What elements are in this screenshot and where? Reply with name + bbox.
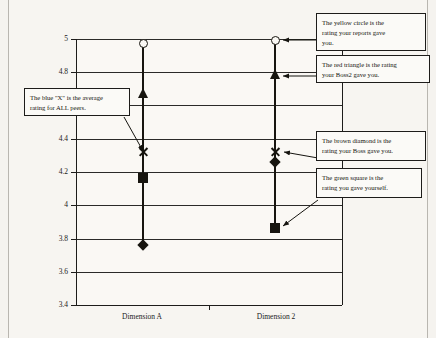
marker-reports-dimension-2 [271, 36, 280, 45]
callout-reports-line1: The yellow circle is the [322, 18, 420, 27]
y-tick-3.8 [71, 239, 76, 240]
y-label-3.4: 3.4 [59, 301, 68, 309]
callout-boss: The brown diamond is the rating your Bos… [316, 131, 426, 161]
marker-reports-dimension-a [139, 39, 148, 48]
y-label-3.8: 3.8 [59, 235, 68, 243]
y-label-5.0: 5 [64, 35, 68, 43]
gridline-4.8 [76, 72, 342, 73]
gridline-4.2 [76, 172, 342, 173]
y-label-4.8: 4.8 [59, 68, 68, 76]
x-label-dimension-a: Dimension A [102, 313, 182, 321]
gridline-3.8 [76, 239, 342, 240]
marker-boss2-dimension-2 [270, 69, 280, 79]
y-axis-line [76, 39, 77, 305]
gridline-5.0 [76, 39, 342, 40]
marker-boss2-dimension-a [138, 88, 148, 98]
gridline-4.4 [76, 139, 342, 140]
callout-peers-line1: The blue "X" is the average [30, 93, 124, 102]
y-tick-4.2 [71, 172, 76, 173]
callout-peers-average: The blue "X" is the average rating for A… [24, 88, 130, 116]
callout-self-line1: The green square is the [322, 173, 416, 182]
y-label-4.4: 4.4 [59, 135, 68, 143]
y-tick-3.6 [71, 272, 76, 273]
gridline-3.6 [76, 272, 342, 273]
callout-reports-line2: rating your reports gave [322, 28, 420, 37]
y-tick-5.0 [71, 39, 76, 40]
y-label-4.0: 4 [64, 201, 68, 209]
y-tick-3.4 [71, 305, 76, 306]
callout-boss-line1: The brown diamond is the [322, 136, 420, 145]
callout-boss2-line2: your Boss2 gave you. [322, 70, 424, 79]
marker-peers-average-dimension-a [138, 146, 149, 157]
callout-boss2-line1: The red triangle is the rating [322, 60, 424, 69]
callout-reports-line3: you. [322, 38, 420, 47]
callout-peers-line2: rating for ALL peers. [30, 103, 124, 112]
y-tick-4.4 [71, 139, 76, 140]
x-tick-mid [209, 305, 210, 310]
x-label-dimension-2: Dimension 2 [236, 313, 316, 321]
callout-boss2: The red triangle is the rating your Boss… [316, 55, 430, 83]
marker-self-dimension-2 [270, 223, 280, 233]
callout-boss-line2: rating your Boss gave you. [322, 146, 420, 155]
y-label-3.6: 3.6 [59, 268, 68, 276]
callout-reports: The yellow circle is the rating your rep… [316, 13, 426, 51]
callout-self-line2: rating you gave yourself. [322, 183, 416, 192]
y-tick-4.0 [71, 205, 76, 206]
marker-self-dimension-a [138, 173, 148, 183]
callout-self: The green square is the rating you gave … [316, 168, 422, 198]
y-label-4.2: 4.2 [59, 168, 68, 176]
gridline-4.0 [76, 205, 342, 206]
y-tick-4.8 [71, 72, 76, 73]
chart-page: 5 4.8 4.6 4.4 4.2 4 3.8 3.6 3.4 Dimensio… [0, 0, 436, 338]
